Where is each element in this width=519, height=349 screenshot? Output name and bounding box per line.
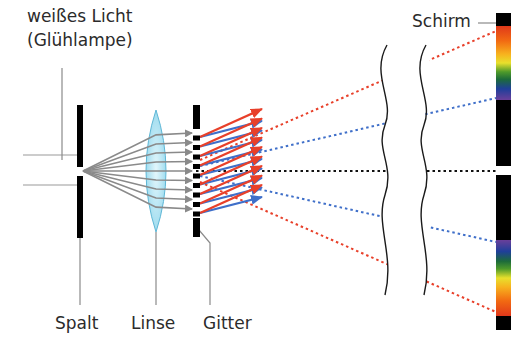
lens-label: Linse — [131, 313, 175, 333]
slit-label: Spalt — [55, 313, 98, 333]
incoming-light-rays — [23, 155, 77, 185]
lower-blue-beam — [200, 176, 496, 242]
leader-lines — [62, 23, 496, 305]
fan-rays — [83, 133, 192, 209]
slit — [77, 105, 83, 238]
lower-spectrum — [496, 240, 511, 316]
upper-red-beam — [200, 31, 496, 160]
light-source-label: weißes Licht — [27, 6, 133, 26]
light-source-label-sub: (Glühlampe) — [27, 30, 133, 50]
upper-spectrum — [496, 26, 511, 100]
diffraction-grating-diagram — [0, 0, 519, 349]
grating-label: Gitter — [203, 313, 252, 333]
first-order-beams — [200, 31, 496, 312]
grating-leader — [199, 230, 210, 305]
break-lines — [381, 45, 431, 295]
diffracted-arrows — [200, 109, 262, 213]
screen-label: Schirm — [412, 11, 471, 31]
screen — [496, 13, 511, 330]
